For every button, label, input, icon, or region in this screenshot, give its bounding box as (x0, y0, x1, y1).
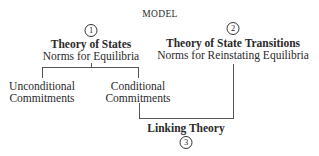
connector-bracket (42, 67, 139, 68)
unconditional-label-1: Unconditional (9, 81, 75, 93)
connector-left-leg (42, 67, 43, 78)
theory-of-state-transitions-subtitle: Norms for Reinstating Equilibria (157, 50, 309, 62)
theory-of-states-subtitle: Norms for Equilibria (43, 51, 139, 63)
connector-conditional-down (139, 103, 140, 119)
connector-linking-bottom (139, 118, 234, 119)
conditional-label-2: Commitments (105, 93, 170, 105)
unconditional-label-2: Commitments (9, 93, 74, 105)
number-badge-3: 3 (180, 136, 193, 149)
connector-right-leg (138, 67, 139, 78)
number-badge-2: 2 (227, 22, 240, 35)
model-title: MODEL (142, 10, 177, 20)
theory-of-states-title: Theory of States (51, 39, 132, 51)
number-badge-1: 1 (85, 24, 98, 37)
connector-transitions-down (233, 64, 234, 119)
theory-of-state-transitions-title: Theory of State Transitions (166, 38, 300, 50)
linking-theory-title: Linking Theory (147, 123, 224, 135)
conditional-label-1: Conditional (111, 81, 165, 93)
